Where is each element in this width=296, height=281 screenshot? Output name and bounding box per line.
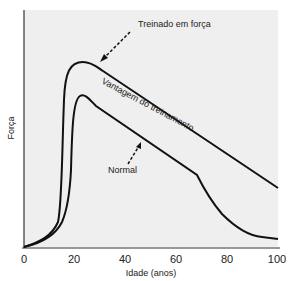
y-axis-label: Força <box>6 116 16 139</box>
x-tick-80: 80 <box>221 253 233 265</box>
x-axis-label: Idade (anos) <box>126 268 177 278</box>
x-ticks: 0 20 40 60 80 100 <box>21 253 286 265</box>
x-tick-20: 20 <box>68 253 80 265</box>
x-tick-40: 40 <box>119 253 131 265</box>
x-tick-100: 100 <box>268 253 286 265</box>
annotation-trained: Treinado em força <box>138 19 211 29</box>
x-tick-60: 60 <box>170 253 182 265</box>
line-chart: 0 20 40 60 80 100 Idade (anos) Força Tre… <box>0 0 296 281</box>
x-tick-0: 0 <box>21 253 27 265</box>
annotation-normal: Normal <box>108 165 137 175</box>
